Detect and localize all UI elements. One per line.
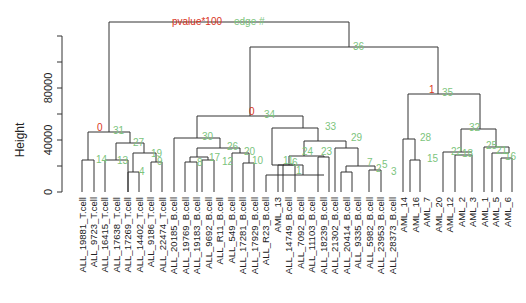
edge-number-label: 13 [117,155,129,166]
edge-legend-label: edge # [234,16,265,27]
edge-number-label: 23 [321,146,333,157]
leaf-label: ALL_17929_B.cell [249,197,260,274]
edge-number-label: 14 [96,154,108,165]
leaf-label: ALL_R11_B.cell [214,197,225,264]
edge-number-label: 15 [427,153,439,164]
leaf-label: ALL_R23_B.cell [260,197,271,265]
pvalue-label: 0 [249,106,255,117]
node-annotations: 0312714131994034302620817121011613329242… [96,41,517,177]
leaf-label: ALL_17269_T.cell [122,197,133,273]
leaf-label: ALL_9186_T.cell [145,197,156,267]
pvalue-label: 1 [429,84,435,95]
y-axis: 04000080000 [42,36,62,195]
leaf-label: AML_7 [421,197,432,227]
leaf-label: ALL_17281_B.cell [237,197,248,274]
leaf-label: ALL_14402_T.cell [134,197,145,273]
edge-number-label: 7 [367,157,373,168]
edge-number-label: 17 [209,152,221,163]
edge-number-label: 26 [227,141,239,152]
pvalue-label: 0 [97,122,103,133]
edge-number-label: 12 [222,156,234,167]
edge-number-label: 35 [442,87,454,98]
leaf-label: AML_12 [444,197,455,232]
leaf-label: ALL_19183_B.cell [191,197,202,274]
leaf-label: AML_2 [456,197,467,227]
leaf-label: ALL_9335_B.cell [352,197,363,269]
leaf-labels: ALL_19881_T.cellALL_9723_T.cellALL_16415… [77,197,513,274]
edge-number-label: 34 [264,109,276,120]
leaf-label: ALL_23953_B.cell [375,197,386,274]
leaf-label: ALL_20185_B.cell [168,197,179,274]
leaf-label: ALL_5982_B.cell [364,197,375,269]
leaf-label: AML_1 [479,197,490,227]
leaf-label: ALL_9692_B.cell [203,197,214,269]
edge-number-label: 10 [252,155,264,166]
edge-number-label: 32 [469,122,481,133]
leaf-label: ALL_11103_B.cell [306,197,317,273]
dendrogram-plot: 04000080000 0312714131994034302620817121… [0,0,526,303]
edge-number-label: 29 [351,132,363,143]
leaf-label: ALL_9723_T.cell [88,197,99,267]
edge-number-label: 18 [462,148,474,159]
leaf-label: AML_5 [490,197,501,227]
leaf-label: AML_6 [502,197,513,227]
au-legend-label: pvalue*100 [172,16,222,27]
edge-number-label: 8 [197,157,203,168]
leaf-label: ALL_20414_B.cell [341,197,352,274]
y-tick-label: 80000 [42,73,54,104]
leaf-label: ALL_549_B.cell [226,197,237,264]
y-tick-label: 0 [42,189,54,195]
edge-number-label: 30 [202,131,214,142]
leaf-label: ALL_21302_B.cell [329,197,340,274]
leaf-label: ALL_19769_B.cell [180,197,191,274]
leaf-label: ALL_16415_T.cell [99,197,110,273]
edge-number-label: 4 [139,166,145,177]
leaf-label: AML_13 [272,197,283,232]
edge-number-label: 33 [325,121,337,132]
leaf-label: ALL_18239_B.cell [318,197,329,274]
edge-number-label: 28 [420,132,432,143]
leaf-label: AML_16 [410,197,421,232]
edge-number-label: 36 [353,41,365,52]
leaf-label: ALL_7092_B.cell [295,197,306,269]
edge-number-label: 1 [296,165,302,176]
edge-number-label: 16 [505,151,517,162]
leaf-label: AML_20 [433,197,444,232]
edge-number-label: 27 [133,137,145,148]
edge-number-label: 24 [302,146,314,157]
y-tick-label: 40000 [42,125,54,156]
edge-number-label: 31 [113,125,125,136]
leaf-label: AML_14 [398,197,409,232]
leaf-label: ALL_22474_T.cell [157,197,168,273]
dendrogram-chart: 04000080000 0312714131994034302620817121… [0,0,526,303]
leaf-label: ALL_19881_T.cell [77,197,88,273]
edge-number-label: 22 [451,146,463,157]
leaf-label: ALL_14749_B.cell [283,197,294,274]
y-axis-label: Height [13,122,27,157]
leaf-label: AML_3 [467,197,478,227]
edge-number-label: 9 [157,156,163,167]
leaf-label: ALL_28373_B.cell [387,197,398,274]
edge-number-label: 3 [391,166,397,177]
edge-number-label: 5 [382,159,388,170]
leaf-label: ALL_17638_T.cell [111,197,122,273]
